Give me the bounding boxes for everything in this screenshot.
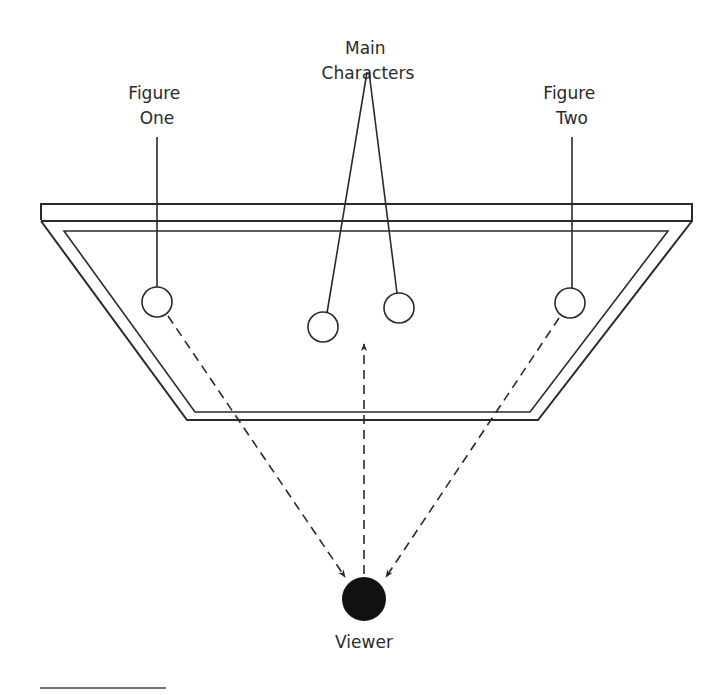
- sightlines: [168, 316, 559, 577]
- label-viewer: Viewer: [335, 632, 393, 652]
- label-figure-one-line1: Figure: [128, 83, 180, 103]
- stage: [41, 204, 692, 420]
- leader-main-right: [369, 72, 397, 293]
- label-main-characters: Main Characters: [322, 38, 415, 83]
- stage-front-slab: [41, 204, 692, 222]
- label-figure-two: Figure Two: [543, 83, 600, 128]
- sightline-figure-one-to-viewer: [168, 316, 345, 577]
- main-character-left-circle: [308, 312, 338, 342]
- label-main-line2: Characters: [322, 63, 415, 83]
- leader-main-left: [327, 72, 367, 313]
- main-character-right-circle: [384, 293, 414, 323]
- figures: [142, 287, 585, 342]
- staging-diagram: Figure One Main Characters Figure Two Vi…: [0, 0, 728, 695]
- label-figure-one-line2: One: [140, 108, 175, 128]
- sightline-figure-two-to-viewer: [386, 318, 559, 577]
- label-main-line1: Main: [345, 38, 386, 58]
- label-figure-two-line1: Figure: [543, 83, 595, 103]
- leader-lines: [157, 72, 572, 313]
- figure-one-circle: [142, 287, 172, 317]
- stage-outer-edge: [41, 221, 692, 420]
- figure-two-circle: [555, 288, 585, 318]
- stage-inner-edge: [64, 231, 668, 412]
- viewer-dot: [342, 577, 386, 621]
- label-figure-two-line2: Two: [555, 108, 588, 128]
- label-figure-one: Figure One: [128, 83, 185, 128]
